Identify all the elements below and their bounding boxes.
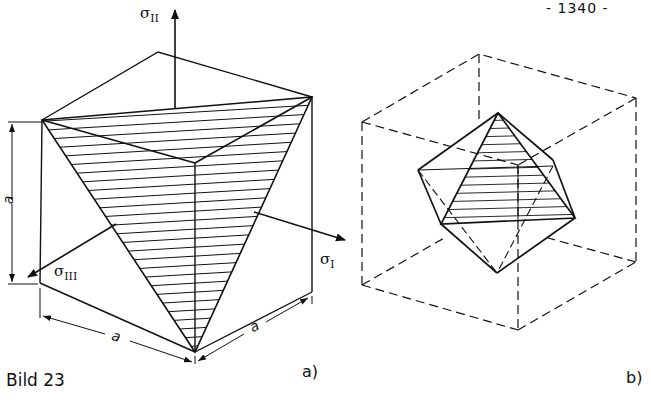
figure-b — [362, 54, 636, 330]
dimension-left — [40, 288, 195, 364]
octahedron-edges — [418, 113, 575, 273]
hatch-a — [30, 104, 330, 356]
figure-a — [8, 10, 345, 364]
figure-caption: Bild 23 — [6, 370, 65, 390]
axis-label-sigma-3: σIII — [54, 262, 77, 283]
page-number: - 1340 - — [546, 0, 609, 16]
axis-label-sigma-1: σI — [320, 250, 335, 271]
hatch-b — [430, 118, 590, 226]
subfigure-label-b: b) — [626, 368, 642, 387]
axis-label-sigma-2: σII — [140, 4, 159, 25]
dimension-label-height: a — [0, 196, 16, 205]
subfigure-label-a: a) — [302, 362, 318, 381]
figure-drawing — [0, 0, 651, 406]
axis-sigma-1 — [254, 212, 345, 240]
